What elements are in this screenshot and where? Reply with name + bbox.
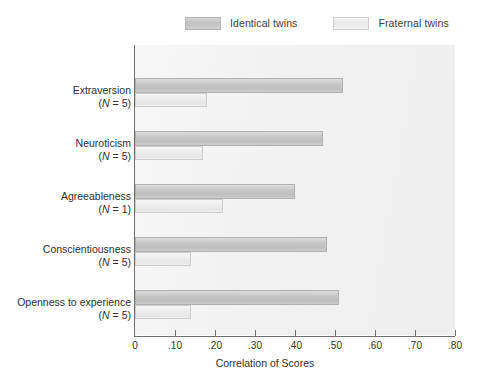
x-axis-tick (295, 330, 296, 336)
bar-fraternal-twins (135, 146, 203, 160)
x-axis-tick-label: 0 (120, 340, 150, 351)
bar-identical-twins (135, 131, 323, 146)
x-axis-title: Correlation of Scores (0, 357, 480, 369)
category-label: Neuroticism(N = 5) (0, 137, 131, 163)
x-axis-tick-label: .50 (320, 340, 350, 351)
category-sample-size: (N = 5) (0, 150, 131, 163)
category-sample-size: (N = 1) (0, 203, 131, 216)
bar-identical-twins (135, 184, 295, 199)
x-axis-tick (255, 330, 256, 336)
category-row: Conscientiousness(N = 5) (0, 237, 480, 295)
bar-identical-twins (135, 290, 339, 305)
category-name: Extraversion (73, 84, 131, 96)
category-row: Extraversion(N = 5) (0, 78, 480, 136)
legend-entry-identical-twins: Identical twins (185, 17, 297, 30)
x-axis-tick (335, 330, 336, 336)
x-axis-tick-label: .80 (440, 340, 470, 351)
twin-correlation-bar-chart: Identical twins Fraternal twins Extraver… (0, 0, 480, 389)
x-axis-tick (215, 330, 216, 336)
category-name: Openness to experience (17, 296, 131, 308)
bar-identical-twins (135, 237, 327, 252)
category-sample-size: (N = 5) (0, 256, 131, 269)
category-label: Extraversion(N = 5) (0, 84, 131, 110)
x-axis-tick-label: .30 (240, 340, 270, 351)
x-axis-tick (455, 330, 456, 336)
x-axis-tick (375, 330, 376, 336)
legend-swatch-fraternal-twins (333, 17, 369, 30)
category-sample-size: (N = 5) (0, 309, 131, 322)
category-name: Neuroticism (76, 137, 131, 149)
category-label: Agreeableness(N = 1) (0, 190, 131, 216)
legend-label-fraternal-twins: Fraternal twins (378, 17, 448, 29)
category-name: Agreeableness (61, 190, 131, 202)
x-axis-tick (415, 330, 416, 336)
category-label: Openness to experience(N = 5) (0, 296, 131, 322)
bar-fraternal-twins (135, 93, 207, 107)
category-row: Agreeableness(N = 1) (0, 184, 480, 242)
legend-swatch-identical-twins (185, 17, 221, 30)
bar-fraternal-twins (135, 199, 223, 213)
x-axis-tick-label: .40 (280, 340, 310, 351)
x-axis-tick (175, 330, 176, 336)
bar-identical-twins (135, 78, 343, 93)
category-row: Neuroticism(N = 5) (0, 131, 480, 189)
x-axis-tick-label: .60 (360, 340, 390, 351)
x-axis-tick-label: .10 (160, 340, 190, 351)
bar-fraternal-twins (135, 252, 191, 266)
legend-label-identical-twins: Identical twins (230, 17, 297, 29)
chart-legend: Identical twins Fraternal twins (185, 12, 449, 34)
x-axis-tick-label: .20 (200, 340, 230, 351)
x-axis-tick-label: .70 (400, 340, 430, 351)
bar-fraternal-twins (135, 305, 191, 319)
category-sample-size: (N = 5) (0, 97, 131, 110)
category-label: Conscientiousness(N = 5) (0, 243, 131, 269)
category-name: Conscientiousness (43, 243, 131, 255)
legend-entry-fraternal-twins: Fraternal twins (333, 17, 448, 30)
